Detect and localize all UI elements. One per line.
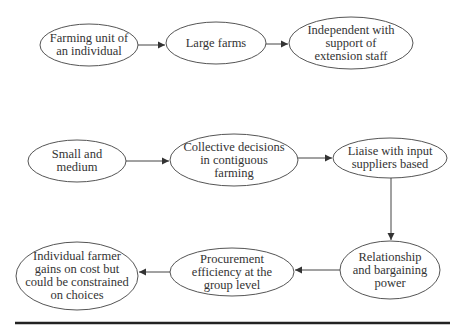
node-procurement-efficiency: Procurementefficiency at thegroup level xyxy=(170,248,294,296)
node-text-line: power xyxy=(353,277,427,290)
node-collective-decisions: Collective decisionsin contiguousfarming xyxy=(170,134,298,186)
node-text-line: suppliers based xyxy=(348,158,433,171)
node-text-line: medium xyxy=(52,161,102,174)
node-text-line: and bargaining xyxy=(353,264,427,277)
node-small-and-medium: Small andmedium xyxy=(28,140,126,182)
node-text-line: Large farms xyxy=(186,37,247,50)
node-text-line: on choices xyxy=(25,289,128,302)
node-text-line: in contiguous xyxy=(183,154,284,167)
node-text-line: farming xyxy=(183,167,284,180)
node-text-line: group level xyxy=(192,279,272,292)
node-independent-extension-staff: Independent withsupport ofextension staf… xyxy=(289,17,413,69)
node-text-line: support of xyxy=(307,37,394,50)
node-relationship-bargaining: Relationshipand bargainingpower xyxy=(340,241,440,299)
node-text-line: an individual xyxy=(50,45,128,58)
node-liaise-input-suppliers: Liaise with inputsuppliers based xyxy=(333,138,447,178)
node-text-line: Independent with xyxy=(307,24,394,37)
node-farming-unit-individual: Farming unit ofan individual xyxy=(40,24,138,66)
node-large-farms: Large farms xyxy=(166,22,266,64)
node-individual-farmer-gains: Individual farmergains on cost butcould … xyxy=(16,242,138,310)
node-text-line: extension staff xyxy=(307,50,394,63)
node-text-line: efficiency at the xyxy=(192,266,272,279)
node-text-line: Collective decisions xyxy=(183,141,284,154)
node-text-line: Procurement xyxy=(192,253,272,266)
node-text-line: Relationship xyxy=(353,251,427,264)
